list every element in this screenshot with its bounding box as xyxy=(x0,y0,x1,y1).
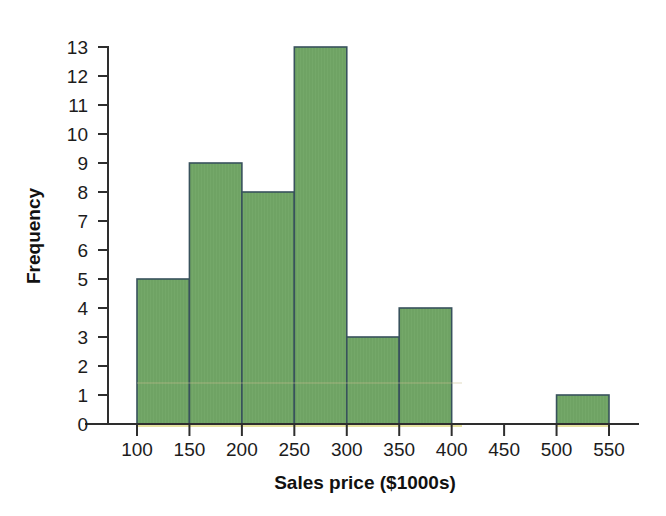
y-tick-label: 8 xyxy=(77,182,88,203)
x-tick-label: 350 xyxy=(383,439,415,460)
x-tick-label: 100 xyxy=(121,439,153,460)
x-tick-label: 450 xyxy=(488,439,520,460)
histogram-bar xyxy=(294,47,346,424)
y-tick-label: 4 xyxy=(77,298,88,319)
histogram-bar xyxy=(557,395,609,424)
x-tick-label: 250 xyxy=(278,439,310,460)
y-tick-label: 7 xyxy=(77,211,88,232)
histogram-chart: 012345678910111213 100150200250300350400… xyxy=(0,0,666,516)
x-tick-label: 550 xyxy=(593,439,625,460)
histogram-bar xyxy=(347,337,399,424)
x-tick-label: 500 xyxy=(541,439,573,460)
chart-canvas: 012345678910111213 100150200250300350400… xyxy=(0,0,666,516)
y-tick-label: 13 xyxy=(67,37,88,58)
y-axis-title: Frequency xyxy=(23,188,44,285)
y-tick-label: 3 xyxy=(77,327,88,348)
y-tick-label: 12 xyxy=(67,66,88,87)
x-axis-title: Sales price ($1000s) xyxy=(274,472,456,493)
y-tick-label: 6 xyxy=(77,240,88,261)
x-tick-label: 300 xyxy=(331,439,363,460)
x-tick-label: 200 xyxy=(226,439,258,460)
y-tick-label: 2 xyxy=(77,356,88,377)
histogram-bar xyxy=(137,279,189,424)
histogram-bar xyxy=(399,308,451,424)
y-tick-label: 10 xyxy=(67,124,88,145)
x-tick-label: 400 xyxy=(436,439,468,460)
histogram-bar xyxy=(189,163,241,424)
y-tick-label: 5 xyxy=(77,269,88,290)
histogram-bar xyxy=(242,192,294,424)
y-tick-label: 11 xyxy=(68,95,88,116)
y-tick-label: 9 xyxy=(77,153,88,174)
y-tick-label: 0 xyxy=(77,414,88,435)
x-tick-label: 150 xyxy=(174,439,206,460)
y-tick-label: 1 xyxy=(77,385,88,406)
